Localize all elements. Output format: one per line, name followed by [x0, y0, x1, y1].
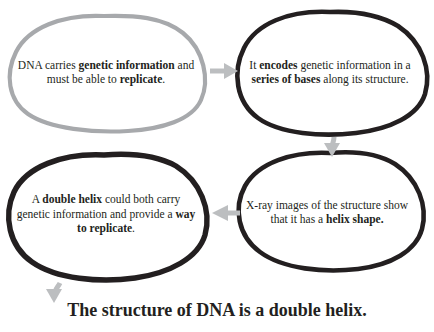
- arrow-2-to-3: [324, 137, 340, 157]
- node-xray-helix-shape: X-ray images of the structure show that …: [232, 156, 422, 268]
- diagram-canvas: DNA carries genetic information and must…: [0, 0, 434, 332]
- node3-text: X-ray images of the structure show that …: [232, 198, 422, 227]
- node-dna-carries-information: DNA carries genetic information and must…: [8, 14, 204, 130]
- node-double-helix-conclusion: A double helix could both carry genetic …: [8, 156, 204, 272]
- node-encodes-bases: It encodes genetic information in a seri…: [232, 14, 428, 130]
- node2-text: It encodes genetic information in a seri…: [232, 58, 428, 87]
- node1-text: DNA carries genetic information and must…: [8, 58, 204, 87]
- diagram-headline: The structure of DNA is a double helix.: [0, 300, 434, 321]
- node4-text: A double helix could both carry genetic …: [8, 192, 204, 235]
